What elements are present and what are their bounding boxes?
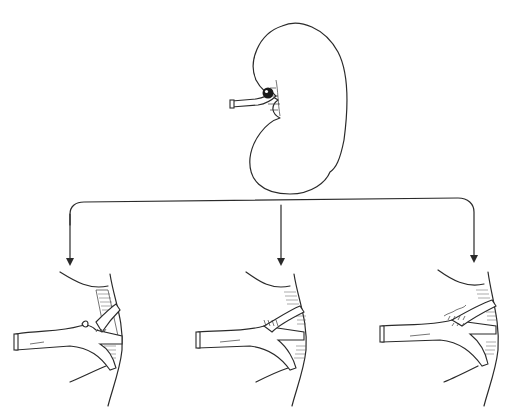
branching-arrows: [66, 198, 478, 266]
vessel-cut-end: [230, 100, 234, 108]
arrow-head-left: [66, 258, 74, 266]
arrow-head-right: [470, 255, 478, 263]
arrow-head-center: [277, 258, 285, 266]
aneurysm: [263, 88, 274, 99]
kidney-illustration: [230, 23, 347, 194]
repair-panel-2: [196, 272, 306, 406]
repair-panel-1: [14, 272, 122, 406]
figure-canvas: [0, 0, 516, 414]
repair-panel-3: [380, 270, 498, 406]
aneurysm-stump: [82, 321, 88, 327]
